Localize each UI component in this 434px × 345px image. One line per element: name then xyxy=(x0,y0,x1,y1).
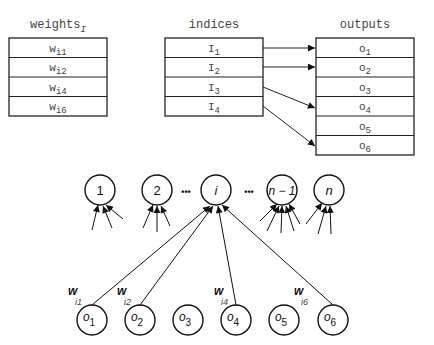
weights-table-title: weightsI xyxy=(30,18,86,35)
edge-label-wi6: wi6 xyxy=(294,284,308,307)
neuron-2-label: 2 xyxy=(153,183,160,198)
weights-table: weightsI wi1 wi2 wi4 wi6 xyxy=(9,18,107,116)
output-cell: o2 xyxy=(359,62,371,77)
arrow-i4-o6 xyxy=(263,106,315,146)
output-cell: o3 xyxy=(359,82,371,97)
edge-label-wi1: wi1 xyxy=(68,284,82,307)
output-cell: o1 xyxy=(359,43,371,58)
arrow-i3-o4 xyxy=(263,87,315,108)
weight-cell: wi6 xyxy=(49,101,66,116)
outputs-table-title: outputs xyxy=(340,18,390,32)
outputs-table: outputs o1 o2 o3 o4 o5 o6 xyxy=(316,18,414,155)
index-cell: I3 xyxy=(208,82,220,97)
neuron-n-label: n xyxy=(325,183,332,198)
weight-cell: wi2 xyxy=(49,62,66,77)
index-mapping-arrows xyxy=(263,48,315,146)
edge-label-wi4: wi4 xyxy=(214,284,228,307)
index-cell: I2 xyxy=(208,62,220,77)
output-cell: o4 xyxy=(359,101,371,116)
sparse-connectivity-diagram: weightsI wi1 wi2 wi4 wi6 indices I1 I2 I… xyxy=(0,0,434,345)
neuron-1-label: 1 xyxy=(96,183,103,198)
weight-cell: wi1 xyxy=(49,43,66,58)
output-cell: o5 xyxy=(359,121,371,136)
neuron-n-minus-1-label: n − 1 xyxy=(268,184,295,198)
top-neuron-layer: 1 2 ••• i ••• n − 1 n xyxy=(85,175,344,234)
edge-o6-i xyxy=(222,205,333,305)
output-neuron-layer: o1 o2 o3 o4 o5 o6 xyxy=(77,305,348,335)
indices-table-title: indices xyxy=(189,18,239,32)
ellipsis: ••• xyxy=(244,187,253,197)
ellipsis: ••• xyxy=(181,187,190,197)
index-cell: I1 xyxy=(208,43,220,58)
weight-cell: wi4 xyxy=(49,82,66,97)
output-cell: o6 xyxy=(359,140,371,155)
edge-label-wi2: wi2 xyxy=(117,284,131,307)
index-cell: I4 xyxy=(208,101,220,116)
indices-table: indices I1 I2 I3 I4 xyxy=(165,18,263,116)
